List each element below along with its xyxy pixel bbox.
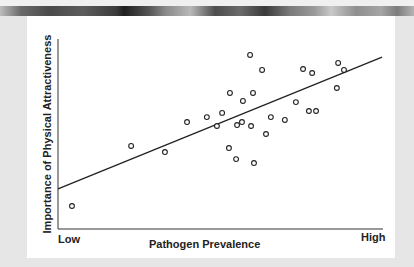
data-point	[240, 120, 245, 125]
data-point	[215, 124, 220, 129]
data-point	[163, 150, 168, 155]
data-point	[282, 118, 287, 123]
data-point	[342, 68, 347, 73]
data-point	[228, 91, 233, 96]
data-point	[264, 132, 269, 137]
data-point	[185, 120, 190, 125]
x-axis-low-label: Low	[58, 233, 80, 245]
trend-line	[58, 57, 382, 189]
data-point	[307, 109, 312, 114]
data-point	[70, 204, 75, 209]
x-axis-label: Pathogen Prevalence	[149, 238, 260, 250]
data-point	[260, 68, 265, 73]
data-point	[204, 115, 209, 120]
data-point	[268, 115, 273, 120]
data-point	[294, 100, 299, 105]
x-axis-high-label: High	[361, 231, 385, 243]
data-point	[252, 161, 257, 166]
data-point	[334, 86, 339, 91]
data-point	[248, 53, 253, 58]
data-points	[70, 53, 347, 209]
data-point	[310, 71, 315, 76]
scatter-plot	[0, 0, 414, 267]
data-point	[234, 157, 239, 162]
data-point	[336, 61, 341, 66]
data-point	[301, 67, 306, 72]
data-point	[249, 124, 254, 129]
data-point	[241, 99, 246, 104]
data-point	[129, 144, 134, 149]
data-point	[314, 109, 319, 114]
data-point	[251, 91, 256, 96]
y-axis-label: Importance of Physical Attractiveness	[41, 35, 53, 234]
data-point	[235, 123, 240, 128]
data-point	[227, 146, 232, 151]
data-point	[220, 111, 225, 116]
